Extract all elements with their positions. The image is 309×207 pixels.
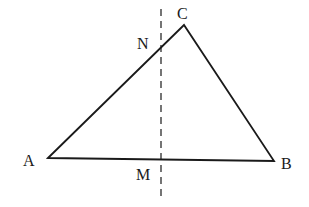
label-m: M [136,166,150,183]
label-b: B [281,155,292,172]
label-c: C [177,5,188,22]
triangle-diagram: C N A M B [0,0,309,207]
label-n: N [137,35,149,52]
label-a: A [23,152,35,169]
